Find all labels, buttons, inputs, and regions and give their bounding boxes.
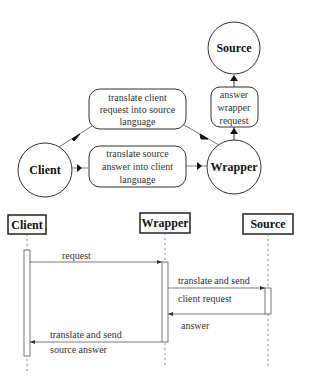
activation-client <box>24 250 30 356</box>
activation-wrapper <box>162 262 168 342</box>
client-node: Client <box>18 143 72 197</box>
message-request: request <box>30 250 162 264</box>
message-label: translate and send <box>50 329 122 340</box>
diagram-canvas: Source answer wrapper request Wrapper Cl… <box>0 0 310 386</box>
source-node: Source <box>208 22 260 74</box>
lifeline-client-head: Client <box>8 215 46 234</box>
message-translate-client-request: translate and send client request <box>168 275 265 304</box>
translate-request-box: translate client request into source lan… <box>89 89 186 129</box>
box-line: translate source <box>106 148 169 159</box>
lifeline-source-label: Source <box>250 217 286 231</box>
box-line: answer <box>220 89 249 100</box>
activation-source <box>265 288 271 314</box>
box-line: wrapper <box>218 102 251 113</box>
lifeline-wrapper-label: Wrapper <box>141 216 189 230</box>
message-translate-source-answer: translate and send source answer <box>30 329 162 355</box>
box-line: answer into client <box>102 161 173 172</box>
wrapper-node-label: Wrapper <box>210 160 258 174</box>
box-line: language <box>119 174 156 185</box>
arrowhead-icon <box>230 75 238 81</box>
wrapper-node: Wrapper <box>207 140 261 194</box>
translate-answer-box: translate source answer into client lang… <box>89 146 186 187</box>
lifeline-client-label: Client <box>11 218 42 232</box>
arrowhead-icon <box>230 128 238 134</box>
source-node-label: Source <box>216 41 252 55</box>
box-line: request into source <box>100 104 176 115</box>
message-label: translate and send <box>178 275 250 286</box>
message-label: client request <box>178 293 232 304</box>
arrowhead-icon <box>200 134 208 139</box>
arrowhead-icon <box>197 162 202 170</box>
lifeline-source-head: Source <box>243 214 293 234</box>
message-label: source answer <box>50 344 108 355</box>
answer-wrapper-request-box: answer wrapper request <box>211 87 258 127</box>
box-line: language <box>119 116 156 127</box>
box-line: request <box>220 115 249 126</box>
client-node-label: Client <box>29 163 60 177</box>
arrowhead-icon <box>77 164 82 172</box>
message-request-label: request <box>62 250 91 261</box>
lifeline-wrapper-head: Wrapper <box>140 213 190 233</box>
message-answer: answer <box>168 312 265 331</box>
message-answer-label: answer <box>181 320 210 331</box>
box-line: translate client <box>108 92 167 103</box>
